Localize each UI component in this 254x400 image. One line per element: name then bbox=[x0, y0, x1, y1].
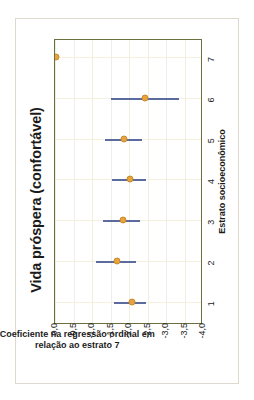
data-point bbox=[128, 298, 135, 305]
y-gridline bbox=[111, 40, 112, 323]
data-point bbox=[121, 135, 128, 142]
x-gridline bbox=[55, 57, 201, 58]
data-point bbox=[141, 95, 148, 102]
y-gridline bbox=[148, 40, 149, 323]
data-point bbox=[55, 54, 60, 61]
y-tick-label: -4,0 bbox=[197, 323, 207, 363]
chart: Vida próspera (confortável) 0,0-0,5-1,0-… bbox=[24, 30, 230, 370]
y-gridline bbox=[55, 40, 56, 323]
x-tick-label: 3 bbox=[206, 212, 216, 232]
x-tick-label: 2 bbox=[206, 253, 216, 273]
data-point bbox=[119, 217, 126, 224]
y-gridline bbox=[185, 40, 186, 323]
figure-page: Vida próspera (confortável) 0,0-0,5-1,0-… bbox=[0, 0, 254, 400]
data-point bbox=[127, 176, 134, 183]
y-axis-title: Coeficiente na regressão ordinal em rela… bbox=[0, 329, 167, 352]
x-tick-label: 6 bbox=[206, 90, 216, 110]
rotated-chart-wrapper: Vida próspera (confortável) 0,0-0,5-1,0-… bbox=[24, 30, 230, 370]
chart-title: Vida próspera (confortável) bbox=[28, 30, 44, 370]
y-gridline bbox=[166, 40, 167, 323]
x-tick-label: 7 bbox=[206, 49, 216, 69]
y-axis-title-holder: Coeficiente na regressão ordinal em rela… bbox=[66, 250, 96, 400]
x-tick-label: 5 bbox=[206, 131, 216, 151]
x-tick-label: 1 bbox=[206, 294, 216, 314]
y-tick-label: -3,5 bbox=[179, 323, 189, 363]
y-axis-title-line2: relação ao estrato 7 bbox=[35, 340, 120, 350]
x-tick-label: 4 bbox=[206, 172, 216, 192]
data-point bbox=[114, 257, 121, 264]
y-axis-title-line1: Coeficiente na regressão ordinal em bbox=[0, 329, 155, 339]
x-axis-title: Estrato socioeconômico bbox=[217, 39, 227, 324]
